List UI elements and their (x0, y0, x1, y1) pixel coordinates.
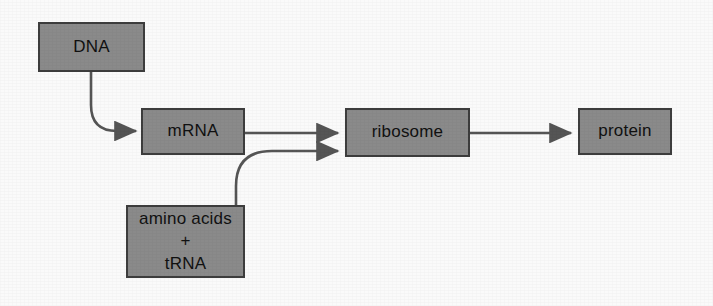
node-amino-acids-label-line-2: + (180, 230, 190, 252)
node-mrna-label-line-1: mRNA (168, 120, 219, 142)
node-amino-acids-trna: amino acids + tRNA (126, 205, 245, 278)
diagram-canvas: DNA mRNA ribosome protein amino acids + … (0, 0, 713, 306)
node-ribosome: ribosome (345, 108, 470, 157)
node-dna: DNA (38, 22, 145, 72)
node-mrna: mRNA (141, 108, 245, 155)
arrow-aminoacids-to-ribosome (236, 151, 338, 205)
node-amino-acids-label-line-1: amino acids (139, 208, 232, 230)
node-protein: protein (578, 108, 672, 155)
node-dna-label-line-1: DNA (73, 36, 110, 58)
node-amino-acids-label-line-3: tRNA (165, 253, 206, 275)
node-ribosome-label-line-1: ribosome (372, 121, 444, 143)
arrow-dna-to-mrna (91, 72, 136, 131)
node-protein-label-line-1: protein (598, 120, 651, 142)
